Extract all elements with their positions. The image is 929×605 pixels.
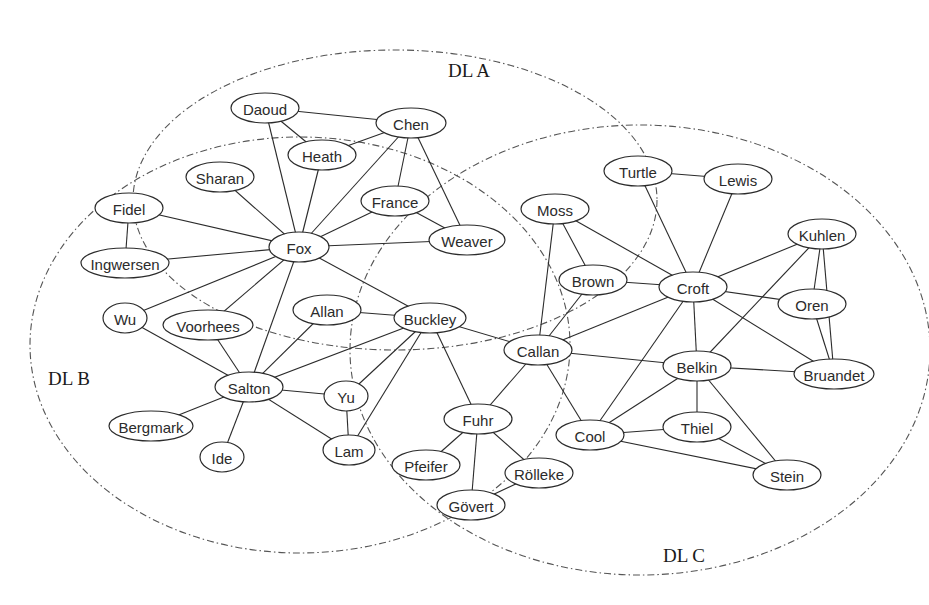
node-label: Fuhr [463,412,494,429]
node-heath[interactable]: Heath [288,140,356,170]
node-label: Allan [310,303,343,320]
node-label: Fox [286,240,312,257]
node-fidel[interactable]: Fidel [95,193,163,223]
node-label: Daoud [243,101,287,118]
node-chen[interactable]: Chen [376,108,446,138]
node-callan[interactable]: Callan [504,335,572,365]
node-kuhlen[interactable]: Kuhlen [788,219,856,249]
node-label: Oren [795,297,828,314]
node-belkin[interactable]: Belkin [663,351,731,381]
node-label: Ide [212,450,233,467]
node-oren[interactable]: Oren [778,289,846,319]
node-pfeifer[interactable]: Pfeifer [392,450,460,480]
node-label: Lewis [719,172,757,189]
node-label: Bruandet [804,367,866,384]
node-label: Gövert [448,498,494,515]
node-label: Yu [337,389,355,406]
region-label-dl-b: DL B [48,368,90,389]
region-label-dl-a: DL A [448,60,490,81]
node-label: Pfeifer [404,458,447,475]
node-bruandet[interactable]: Bruandet [794,359,874,389]
node-govert[interactable]: Gövert [437,490,505,520]
node-label: Wu [114,311,136,328]
edge-moss-callan [538,209,555,350]
node-label: Fidel [113,201,146,218]
node-bergmark[interactable]: Bergmark [109,411,193,441]
node-label: Thiel [681,420,714,437]
node-label: Rölleke [514,466,564,483]
node-label: Sharan [196,170,244,187]
node-label: Heath [302,148,342,165]
node-fox[interactable]: Fox [269,232,329,262]
node-lam[interactable]: Lam [323,435,375,465]
node-cool[interactable]: Cool [556,420,624,450]
node-label: Cool [575,428,606,445]
node-label: France [372,194,419,211]
node-label: Brown [572,273,615,290]
node-label: Salton [228,380,271,397]
node-thiel[interactable]: Thiel [663,412,731,442]
node-daoud[interactable]: Daoud [231,93,299,123]
node-brown[interactable]: Brown [559,265,627,295]
node-turtle[interactable]: Turtle [604,156,672,186]
nodes: DaoudChenHeathSharanFidelFranceFoxWeaver… [81,93,874,520]
node-label: Belkin [677,359,718,376]
node-france[interactable]: France [361,186,429,216]
node-label: Callan [517,343,560,360]
node-label: Voorhees [176,318,239,335]
node-yu[interactable]: Yu [324,381,368,411]
node-voorhees[interactable]: Voorhees [163,310,253,340]
node-salton[interactable]: Salton [215,372,283,402]
node-label: Stein [770,468,804,485]
node-label: Buckley [404,311,457,328]
node-fuhr[interactable]: Fuhr [444,404,512,434]
node-label: Kuhlen [799,227,846,244]
node-croft[interactable]: Croft [659,272,727,302]
node-sharan[interactable]: Sharan [186,162,254,192]
node-rolleke[interactable]: Rölleke [505,458,573,488]
node-label: Turtle [619,164,657,181]
node-label: Bergmark [118,419,184,436]
node-allan[interactable]: Allan [293,295,361,325]
edge-chen-weaver [411,123,467,240]
node-weaver[interactable]: Weaver [429,225,505,255]
node-ingwersen[interactable]: Ingwersen [81,248,169,278]
node-label: Moss [537,202,573,219]
node-stein[interactable]: Stein [753,460,821,490]
node-ide[interactable]: Ide [200,442,244,472]
edge-daoud-fox [265,108,299,247]
node-label: Chen [393,116,429,133]
edge-turtle-croft [638,171,693,287]
node-label: Ingwersen [90,256,159,273]
node-label: Weaver [441,233,492,250]
node-label: Lam [334,443,363,460]
node-label: Croft [677,280,710,297]
edge-lam-buckley [349,318,430,450]
collaboration-network-diagram: DaoudChenHeathSharanFidelFranceFoxWeaver… [0,0,929,605]
region-label-dl-c: DL C [663,545,705,566]
node-moss[interactable]: Moss [521,194,589,224]
node-wu[interactable]: Wu [103,303,147,333]
node-lewis[interactable]: Lewis [704,164,772,194]
node-buckley[interactable]: Buckley [394,303,466,333]
